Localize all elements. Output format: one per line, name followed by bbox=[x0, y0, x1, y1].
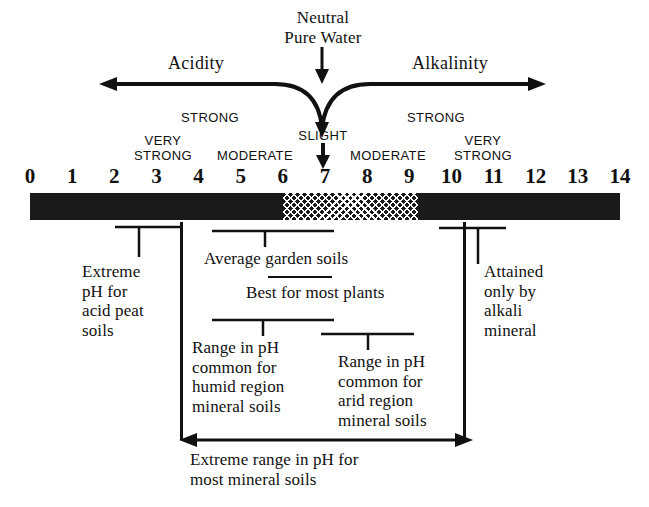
ph-bar bbox=[30, 193, 620, 220]
extreme-range-line1: Extreme range in pH for bbox=[190, 450, 470, 470]
alkali-mineral-leader bbox=[436, 224, 516, 266]
arid-region-line2: common for bbox=[338, 372, 468, 392]
strength-acid-very-strong: VERY STRONG bbox=[118, 133, 208, 163]
strength-alkaline-very-strong-line1: VERY bbox=[438, 133, 528, 148]
arid-region-line3: arid region bbox=[338, 391, 468, 411]
ph-scale-diagram: Neutral Pure Water Acidity Alkalinity ST… bbox=[0, 0, 649, 507]
humid-region-line1: Range in pH bbox=[192, 338, 322, 358]
humid-region-line3: humid region bbox=[192, 377, 322, 397]
alkali-mineral-annotation: Attained only by alkali mineral bbox=[484, 262, 594, 340]
ph-tick-9: 9 bbox=[394, 166, 424, 187]
ph-bar-neutral-band bbox=[283, 193, 418, 220]
alkali-mineral-line2: only by bbox=[484, 282, 594, 302]
strength-acid-strong: STRONG bbox=[155, 110, 265, 125]
ph-tick-row: 01234567891011121314 bbox=[0, 166, 649, 190]
extreme-range-annotation: Extreme range in pH for most mineral soi… bbox=[190, 450, 470, 489]
strength-acid-moderate: MODERATE bbox=[203, 148, 307, 163]
extreme-range-left-boundary bbox=[180, 222, 183, 440]
arid-region-leader bbox=[318, 331, 418, 353]
ph-tick-4: 4 bbox=[184, 166, 214, 187]
neutral-label: Neutral bbox=[243, 8, 403, 28]
strength-alkaline-very-strong: VERY STRONG bbox=[438, 133, 528, 163]
strength-alkaline-very-strong-line2: STRONG bbox=[438, 148, 528, 163]
ph-tick-7: 7 bbox=[310, 166, 340, 187]
best-for-most-plants-leader bbox=[268, 276, 332, 278]
ph-tick-0: 0 bbox=[15, 166, 45, 187]
strength-slight: SLIGHT bbox=[285, 128, 361, 143]
alkali-mineral-line1: Attained bbox=[484, 262, 594, 282]
extreme-range-line2: most mineral soils bbox=[190, 470, 470, 490]
acid-peat-leader bbox=[110, 224, 190, 260]
ph-tick-1: 1 bbox=[57, 166, 87, 187]
arid-region-line1: Range in pH bbox=[338, 352, 468, 372]
acid-peat-line4: soils bbox=[82, 321, 192, 341]
ph-tick-14: 14 bbox=[605, 166, 635, 187]
strength-alkaline-strong: STRONG bbox=[381, 110, 491, 125]
strength-acid-very-strong-line1: VERY bbox=[118, 133, 208, 148]
acid-peat-line2: pH for bbox=[82, 282, 192, 302]
alkali-mineral-line4: mineral bbox=[484, 321, 594, 341]
humid-region-annotation: Range in pH common for humid region mine… bbox=[192, 338, 322, 416]
ph-tick-10: 10 bbox=[436, 166, 466, 187]
ph-tick-3: 3 bbox=[141, 166, 171, 187]
average-garden-soils-leader bbox=[208, 228, 338, 250]
strength-alkaline-moderate: MODERATE bbox=[336, 148, 440, 163]
humid-region-line2: common for bbox=[192, 358, 322, 378]
strength-acid-very-strong-line2: STRONG bbox=[118, 148, 208, 163]
acid-peat-line1: Extreme bbox=[82, 262, 192, 282]
ph-tick-12: 12 bbox=[521, 166, 551, 187]
acid-peat-line3: acid peat bbox=[82, 301, 192, 321]
ph-tick-5: 5 bbox=[226, 166, 256, 187]
acid-peat-annotation: Extreme pH for acid peat soils bbox=[82, 262, 192, 340]
arid-region-annotation: Range in pH common for arid region miner… bbox=[338, 352, 468, 430]
humid-region-line4: mineral soils bbox=[192, 397, 322, 417]
ph-tick-8: 8 bbox=[352, 166, 382, 187]
alkali-mineral-line3: alkali bbox=[484, 301, 594, 321]
average-garden-soils-annotation: Average garden soils bbox=[204, 249, 394, 269]
ph-tick-11: 11 bbox=[479, 166, 509, 187]
ph-tick-6: 6 bbox=[268, 166, 298, 187]
extreme-range-arrow bbox=[170, 428, 480, 452]
ph-tick-2: 2 bbox=[99, 166, 129, 187]
ph-tick-13: 13 bbox=[563, 166, 593, 187]
best-for-most-plants-annotation: Best for most plants bbox=[246, 283, 446, 303]
